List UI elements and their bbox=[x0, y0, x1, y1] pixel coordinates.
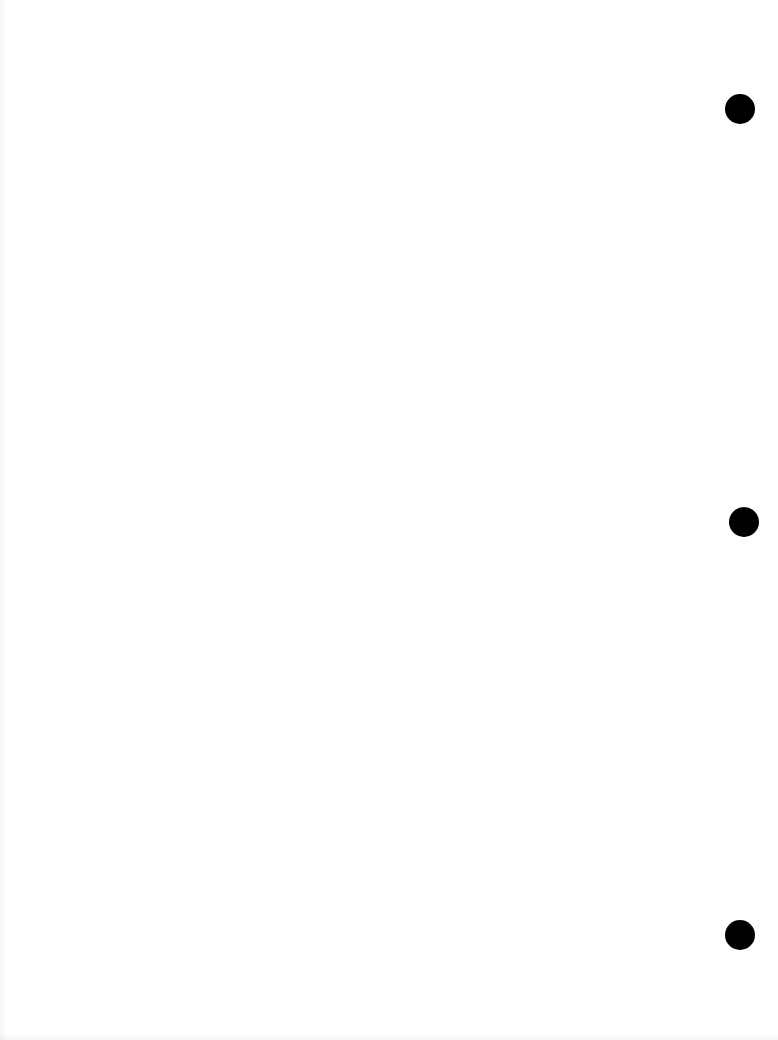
punch-hole-top bbox=[725, 94, 755, 124]
scanned-page bbox=[0, 0, 778, 1040]
punch-hole-middle bbox=[729, 507, 759, 537]
page-edge-shadow-left bbox=[0, 0, 8, 1040]
page-edge-shadow-bottom bbox=[0, 1034, 778, 1040]
punch-hole-bottom bbox=[725, 920, 755, 950]
